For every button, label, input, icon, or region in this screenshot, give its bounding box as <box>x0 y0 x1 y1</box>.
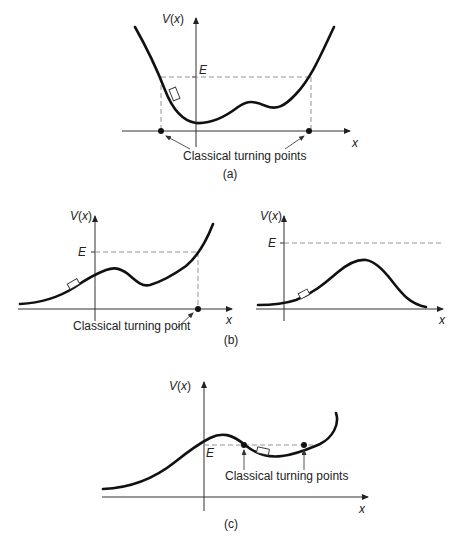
annotation-arrow-right <box>285 136 304 149</box>
panel-b-right: V(x) x E <box>256 209 446 327</box>
y-axis-label: V(x) <box>260 209 282 223</box>
energy-label: E <box>78 245 87 259</box>
panel-b-caption: (b) <box>224 333 239 347</box>
energy-label: E <box>199 63 208 77</box>
particle-cart <box>298 289 310 299</box>
x-axis-label: x <box>358 502 366 516</box>
potential-curve <box>258 260 426 307</box>
turning-point-right <box>301 442 307 448</box>
energy-label: E <box>268 236 277 250</box>
potential-curve <box>20 224 213 304</box>
turning-point-right <box>306 128 312 134</box>
turning-point-left <box>158 128 164 134</box>
panel-caption: (a) <box>223 167 238 181</box>
panel-c: V(x) x E Classical turning points (c) <box>102 379 368 531</box>
turning-point-left <box>241 442 247 448</box>
potential-curve <box>135 27 334 123</box>
particle-cart <box>169 87 180 101</box>
panel-b-left: V(x) x E Classical turning point <box>18 209 233 333</box>
annotation-text: Classical turning points <box>225 469 348 483</box>
particle-cart <box>67 279 80 290</box>
y-axis-label: V(x) <box>162 12 184 26</box>
panel-a: V(x) x E Classical turning points (a) <box>122 12 359 181</box>
annotation-arrow-left <box>166 136 190 149</box>
y-axis-label: V(x) <box>70 209 92 223</box>
x-axis-label: x <box>351 136 359 150</box>
y-axis-label: V(x) <box>169 379 191 393</box>
panel-caption: (c) <box>224 517 238 531</box>
annotation-text: Classical turning points <box>183 149 306 163</box>
x-axis-label: x <box>225 313 233 327</box>
energy-label: E <box>206 446 215 460</box>
x-axis-label: x <box>438 313 446 327</box>
turning-point <box>195 306 201 312</box>
annotation-text: Classical turning point <box>73 319 191 333</box>
potential-energy-figure: V(x) x E Classical turning points (a) V(… <box>0 0 459 546</box>
